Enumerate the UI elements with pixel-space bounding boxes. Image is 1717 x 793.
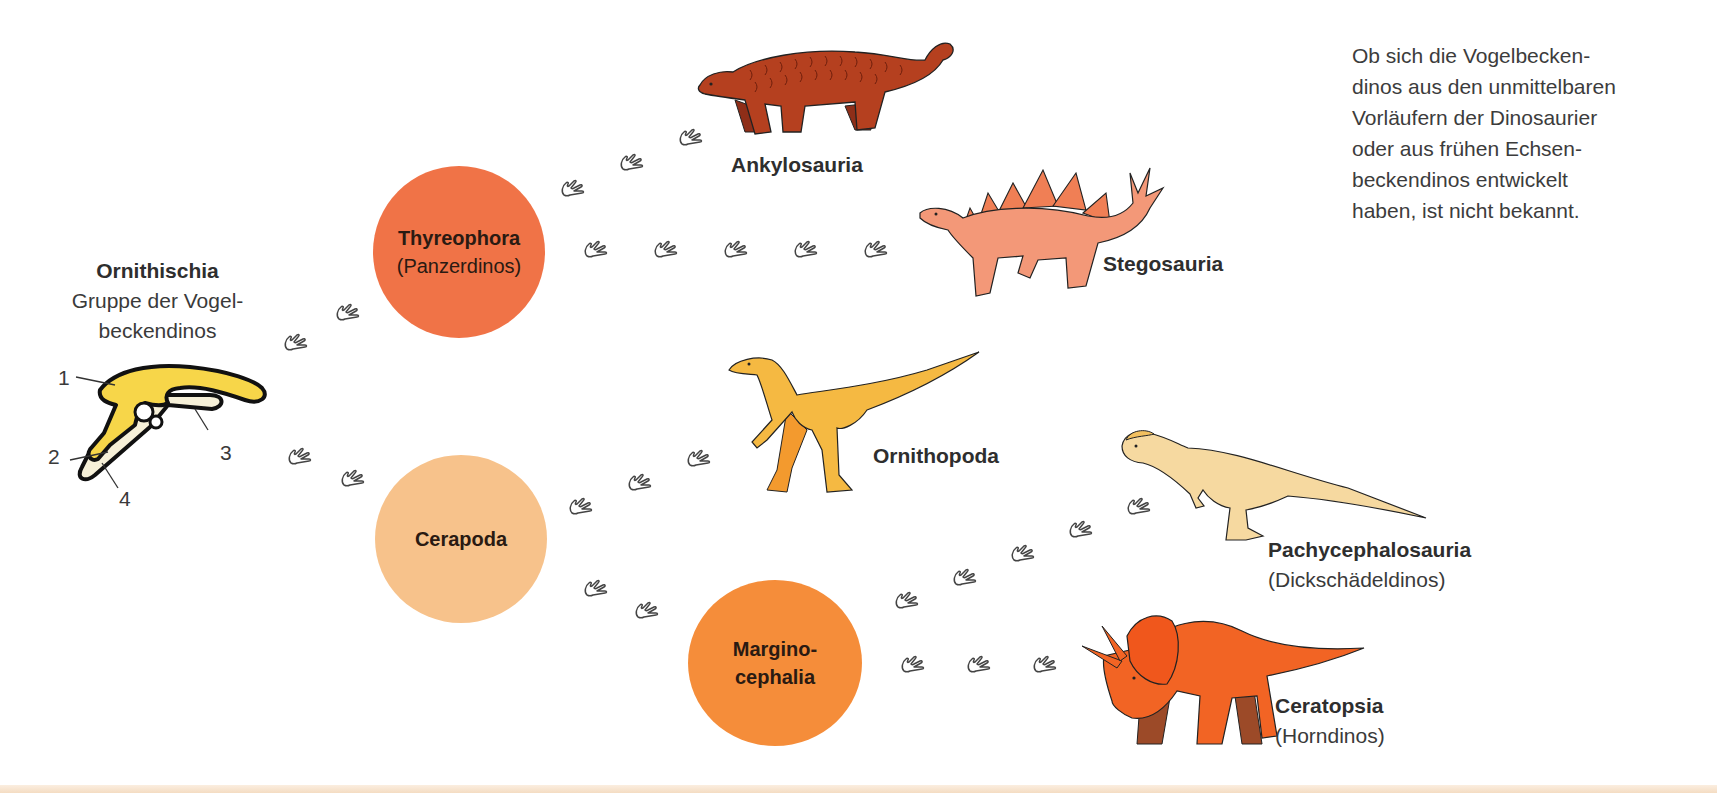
note-line: dinos aus den unmittelbaren: [1352, 71, 1616, 102]
dinosaur-footprint-icon: [894, 590, 920, 610]
dinosaur-footprint-icon: [283, 332, 309, 352]
note-line: oder aus frühen Echsen-: [1352, 133, 1616, 164]
group-cerapoda-name: Cerapoda: [415, 525, 507, 553]
group-marginocephalia-name2: cephalia: [735, 663, 815, 691]
group-thyreophora: Thyreophora (Panzerdinos): [373, 166, 545, 338]
ornithopod-illustration: [727, 350, 982, 500]
taxon-ceratopsia-label: Ceratopsia (Horndinos): [1275, 691, 1385, 751]
dinosaur-footprint-icon: [619, 152, 645, 172]
group-marginocephalia: Margino- cephalia: [688, 580, 862, 746]
group-thyreophora-name: Thyreophora: [398, 224, 520, 252]
pachycephalosaurus-illustration: [1118, 428, 1428, 548]
taxon-ceratopsia-sub: (Horndinos): [1275, 721, 1385, 751]
root-subtitle-1: Gruppe der Vogel-: [55, 286, 260, 316]
dinosaur-footprint-icon: [686, 448, 712, 468]
pelvis-label-2: 2: [48, 442, 60, 472]
group-cerapoda: Cerapoda: [375, 455, 547, 623]
root-title: Ornithischia: [55, 256, 260, 286]
dinosaur-footprint-icon: [287, 446, 313, 466]
root-subtitle-2: beckendinos: [55, 316, 260, 346]
group-marginocephalia-name: Margino-: [733, 635, 817, 663]
taxon-pachycephalosauria-sub: (Dickschädeldinos): [1268, 565, 1471, 595]
taxon-ankylosauria-label: Ankylosauria: [731, 150, 863, 180]
page-bottom-edge: [0, 785, 1717, 793]
note-line: Ob sich die Vogelbecken-: [1352, 40, 1616, 71]
root-label: Ornithischia Gruppe der Vogel- beckendin…: [55, 256, 260, 346]
group-thyreophora-sub: (Panzerdinos): [397, 252, 522, 280]
dinosaur-footprint-icon: [1068, 519, 1094, 539]
side-note: Ob sich die Vogelbecken- dinos aus den u…: [1352, 40, 1616, 226]
dinosaur-footprint-icon: [1032, 654, 1058, 674]
note-line: Vorläufern der Dinosaurier: [1352, 102, 1616, 133]
dinosaur-footprint-icon: [340, 468, 366, 488]
dinosaur-footprint-icon: [900, 654, 926, 674]
dinosaur-footprint-icon: [634, 600, 660, 620]
ankylosaurus-illustration: [695, 40, 955, 140]
taxon-stegosauria-label: Stegosauria: [1103, 249, 1223, 279]
pelvis-label-3: 3: [220, 438, 232, 468]
dinosaur-footprint-icon: [793, 239, 819, 259]
dinosaur-footprint-icon: [1010, 543, 1036, 563]
taxon-pachycephalosauria-name: Pachycephalosauria: [1268, 535, 1471, 565]
dinosaur-footprint-icon: [568, 496, 594, 516]
pelvis-label-4: 4: [119, 484, 131, 514]
dinosaur-footprint-icon: [627, 472, 653, 492]
note-line: haben, ist nicht bekannt.: [1352, 195, 1616, 226]
dinosaur-footprint-icon: [723, 239, 749, 259]
stegosaurus-illustration: [918, 168, 1173, 318]
dinosaur-footprint-icon: [335, 302, 361, 322]
note-line: beckendinos entwickelt: [1352, 164, 1616, 195]
dinosaur-footprint-icon: [952, 567, 978, 587]
taxon-pachycephalosauria-label: Pachycephalosauria (Dickschädeldinos): [1268, 535, 1471, 595]
dinosaur-footprint-icon: [583, 578, 609, 598]
taxon-ceratopsia-name: Ceratopsia: [1275, 691, 1385, 721]
dinosaur-footprint-icon: [560, 178, 586, 198]
pelvis-label-1: 1: [58, 363, 70, 393]
dinosaur-footprint-icon: [653, 239, 679, 259]
dinosaur-footprint-icon: [966, 654, 992, 674]
pelvis-illustration: [40, 355, 280, 515]
taxon-ornithopoda-label: Ornithopoda: [873, 441, 999, 471]
dinosaur-footprint-icon: [863, 239, 889, 259]
dinosaur-footprint-icon: [583, 239, 609, 259]
